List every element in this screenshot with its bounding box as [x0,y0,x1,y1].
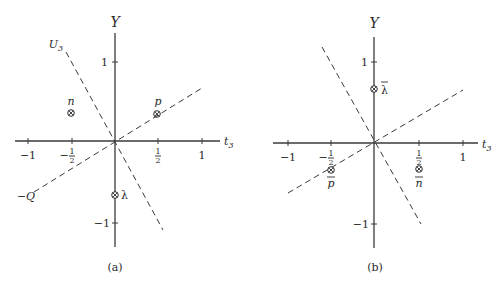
tick-label-x-neg1: −1 [280,151,296,164]
tick-label-x-neg-half-sign: − [59,149,68,162]
tick-label-x-half-num: 1 [416,149,421,158]
point-anti-lambda: λ [371,82,388,97]
point-anti-lambda-label: λ [381,84,388,97]
tick-label-x-half-den: 2 [155,156,160,165]
point-lambda: λ [112,189,128,202]
caption-b: (b) [367,261,383,274]
panel-b: −1 − 1 2 1 2 1 1 −1 Y t3 λ p [273,15,492,274]
tick-label-x-1: 1 [460,151,467,164]
point-p: p [154,95,162,117]
point-lambda-label: λ [121,189,128,202]
point-anti-p-label: p [327,177,334,190]
u3-label: U3 [49,38,63,53]
point-n-label: n [67,95,74,108]
tick-label-x-neg-half-den: 2 [328,158,333,167]
point-n: n [67,95,74,116]
t3-axis-label: t3 [224,135,234,150]
point-anti-n: n [415,166,423,190]
point-anti-p: p [327,167,335,190]
u3-line [322,47,421,224]
tick-label-x-1: 1 [199,149,206,162]
q-line [34,88,202,192]
y-axis-label: Y [369,15,380,31]
tick-label-y-1: 1 [101,56,108,69]
tick-label-x-neg-half-sign: − [318,151,327,164]
caption-a: (a) [107,261,122,274]
tick-label-x-half-num: 1 [155,147,160,156]
point-p-label: p [154,95,161,108]
tick-label-x-neg1: −1 [20,149,36,162]
point-anti-n-label: n [415,177,422,190]
y-axis-label: Y [110,14,121,30]
tick-label-y-neg1: −1 [353,218,369,231]
tick-label-x-neg-half-num: 1 [328,149,333,158]
figure-canvas: −1 − 1 2 1 2 1 1 −1 Y t3 U3 −Q n p [0,0,503,283]
tick-label-x-neg-half-num: 1 [69,147,74,156]
q-line [288,90,463,193]
tick-label-x-neg-half-den: 2 [69,156,74,165]
tick-label-y-neg1: −1 [94,217,110,230]
q-label: −Q [17,190,35,203]
t3-axis-label: t3 [482,138,492,153]
tick-label-y-1: 1 [361,56,368,69]
panel-a: −1 − 1 2 1 2 1 1 −1 Y t3 U3 −Q n p [15,14,234,274]
